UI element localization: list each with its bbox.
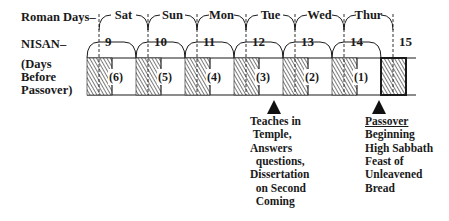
arrow-passover-triangle-icon [372,100,386,114]
nisan-day-label: 9 [105,34,112,49]
roman-day-label: Sat [115,8,133,22]
passover-note-line: Bread [365,182,395,195]
passover-note-line: Unleavened [365,168,423,181]
days-before-count: (6) [109,70,123,84]
days-before-count: (4) [207,70,221,84]
roman-day-label: Tue [261,8,281,22]
passover-note-line: Feast of [365,155,404,168]
teaches-note-line: on Second [250,182,306,195]
nisan-day-label: 14 [350,34,364,49]
teaches-note-line: Teaches in [250,115,301,128]
nisan-bracket [87,42,136,58]
arrow-teaches-triangle-icon [267,100,281,114]
nisan-day-label: 11 [203,34,215,49]
days-before-count: (5) [158,70,172,84]
teaches-note-line: questions, [250,155,305,168]
roman-day-label: Thur [355,8,383,22]
nisan-day-label: 13 [301,34,315,49]
teaches-note-line: Temple, [250,128,292,141]
passover-note-line: High Sabbath [365,142,433,155]
nisan-day-label: 15 [399,34,413,49]
passover-title: Passover [365,115,408,128]
roman-day-label: Sun [162,8,183,22]
nisan-day-label: 10 [154,34,167,49]
roman-day-label: Mon [209,8,234,22]
nisan-day-label: 12 [252,34,265,49]
teaches-note-line: Dissertation [250,168,309,181]
roman-day-label: Wed [307,8,331,22]
teaches-note-line: Answers [250,142,292,155]
teaches-note-line: Coming [250,195,295,208]
days-before-count: (1) [354,70,368,84]
days-before-count: (2) [305,70,319,84]
day-block-15 [381,58,406,95]
days-before-count: (3) [256,70,270,84]
passover-note-line: Beginning [365,128,415,141]
